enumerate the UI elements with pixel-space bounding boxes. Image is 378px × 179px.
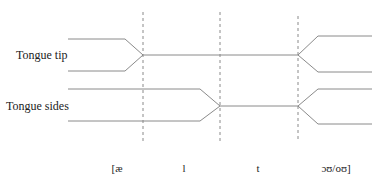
segment-label-ae: [æ: [112, 163, 123, 174]
gesture-diagram: [0, 0, 378, 179]
segment-label-l: l: [182, 163, 185, 174]
row-label-tongue-sides: Tongue sides: [6, 100, 69, 112]
segment-label-ou: ɔʊ/oʊ]: [321, 163, 350, 174]
tongue-sides-trace: [68, 89, 372, 124]
segment-label-t: t: [256, 163, 259, 174]
row-label-tongue-tip: Tongue tip: [16, 49, 68, 61]
